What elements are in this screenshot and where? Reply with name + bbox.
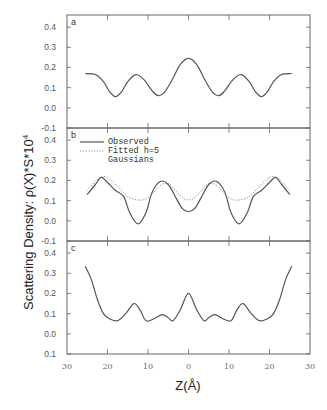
legend-gaussians-label: Gaussians (108, 155, 154, 165)
x-tick-label: 10 (143, 362, 153, 371)
panel-a-frame (67, 15, 310, 128)
panel-c-frame (67, 241, 310, 354)
x-tick-label: 20 (264, 362, 274, 371)
y-tick-label: 0.2 (44, 62, 56, 72)
y-tick-labels: 0.40.30.20.10.0-0.10.40.30.20.10.0-0.10.… (41, 22, 56, 359)
axis-ticks (67, 15, 310, 354)
y-tick-label: 0.1 (44, 196, 56, 206)
y-tick-label: 0.4 (44, 135, 56, 145)
figure: 0.40.30.20.10.0-0.10.40.30.20.10.0-0.10.… (0, 0, 327, 410)
panel-b-frame (67, 128, 310, 241)
fitted-curve-b (87, 176, 290, 200)
x-tick-label: 10 (224, 362, 234, 371)
y-tick-label: -0.1 (41, 123, 56, 133)
observed-curve-a (85, 58, 292, 96)
y-tick-label: 0.4 (44, 22, 56, 32)
panel-b-label: b (71, 130, 76, 140)
legend: Observed Fitted h=5 Gaussians (80, 137, 159, 165)
x-tick-label: 0 (186, 362, 191, 371)
x-axis-title: Z(Å) (175, 378, 200, 393)
y-tick-label: 0.0 (44, 329, 56, 339)
y-tick-label: 0.3 (44, 42, 56, 52)
y-tick-label: 0.0 (44, 216, 56, 226)
observed-curve-c (85, 266, 292, 321)
y-axis-title: Scattering Density: ρ(X)*S*104 (21, 134, 36, 310)
y-tick-label: 0.0 (44, 103, 56, 113)
panel-a-label: a (71, 17, 76, 27)
x-tick-label: 30 (305, 362, 315, 371)
y-tick-label: 0.3 (44, 268, 56, 278)
y-tick-label: 0.1 (44, 83, 56, 93)
observed-curve-b (87, 177, 290, 223)
y-tick-label: 0.3 (44, 155, 56, 165)
y-tick-label: 0.2 (44, 288, 56, 298)
x-tick-labels: 3020100102030 (62, 362, 315, 371)
y-tick-label: 0.4 (44, 248, 56, 258)
panel-c-label: c (71, 243, 76, 253)
y-tick-label: 0.2 (44, 175, 56, 185)
plot-curves (85, 58, 292, 321)
x-tick-label: 30 (62, 362, 72, 371)
y-tick-label: -0.1 (41, 236, 56, 246)
y-tick-label: 0.1 (44, 349, 56, 359)
y-tick-label: 0.1 (44, 309, 56, 319)
x-tick-label: 20 (102, 362, 112, 371)
